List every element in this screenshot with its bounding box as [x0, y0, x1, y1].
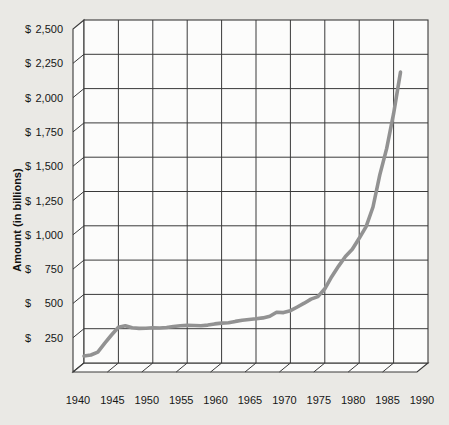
y-tick-value: 1,000	[35, 229, 63, 241]
x-tick-label: 1940	[66, 394, 90, 406]
y-tick-value: 2,250	[35, 57, 63, 69]
x-tick-label: 1970	[272, 394, 296, 406]
debt-line-chart: $250$500$750$1,000$1,250$1,500$1,750$2,0…	[0, 0, 449, 425]
x-tick-label: 1980	[341, 394, 365, 406]
y-tick-currency: $	[25, 23, 31, 35]
y-tick-value: 1,750	[35, 126, 63, 138]
x-tick-label: 1975	[307, 394, 331, 406]
y-tick-value: 500	[45, 297, 63, 309]
y-axis-label: Amount (in billions)	[11, 168, 23, 272]
y-tick-value: 250	[45, 332, 63, 344]
x-tick-label: 1945	[100, 394, 124, 406]
y-tick-value: 1,500	[35, 160, 63, 172]
y-tick-currency: $	[25, 332, 31, 344]
y-tick-currency: $	[25, 229, 31, 241]
y-tick-value: 1,250	[35, 195, 63, 207]
y-tick-value: 2,500	[35, 23, 63, 35]
x-tick-label: 1950	[135, 394, 159, 406]
x-tick-label: 1955	[169, 394, 193, 406]
x-tick-label: 1990	[410, 394, 434, 406]
chart-figure: $250$500$750$1,000$1,250$1,500$1,750$2,0…	[0, 0, 449, 425]
x-tick-label: 1960	[203, 394, 227, 406]
x-tick-label: 1965	[238, 394, 262, 406]
x-tick-label: 1985	[375, 394, 399, 406]
y-tick-currency: $	[25, 92, 31, 104]
y-tick-currency: $	[25, 126, 31, 138]
y-tick-currency: $	[25, 297, 31, 309]
y-tick-currency: $	[25, 160, 31, 172]
y-tick-value: 750	[45, 263, 63, 275]
y-tick-value: 2,000	[35, 92, 63, 104]
y-tick-currency: $	[25, 57, 31, 69]
y-tick-currency: $	[25, 263, 31, 275]
y-tick-currency: $	[25, 195, 31, 207]
